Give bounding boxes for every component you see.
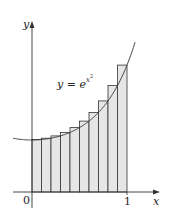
riemann-rectangle bbox=[61, 132, 71, 192]
x-tick-label-1: 1 bbox=[124, 196, 131, 207]
function-label: y = ex2 bbox=[57, 76, 93, 90]
riemann-rectangle bbox=[51, 136, 61, 192]
riemann-rectangle bbox=[32, 140, 42, 192]
riemann-rectangle bbox=[99, 101, 109, 192]
y-axis-arrow-icon bbox=[30, 21, 35, 28]
y-axis-label: y bbox=[23, 19, 29, 30]
x-axis-label: x bbox=[153, 196, 159, 207]
riemann-rectangle bbox=[70, 128, 80, 192]
riemann-rectangle bbox=[118, 65, 128, 192]
function-label-equals: = bbox=[63, 78, 79, 91]
function-label-exp-pow: 2 bbox=[90, 73, 93, 79]
x-axis-arrow-icon bbox=[153, 190, 160, 195]
diagram-canvas bbox=[0, 0, 173, 219]
riemann-rectangle bbox=[89, 112, 99, 192]
riemann-rectangle bbox=[42, 138, 52, 192]
riemann-rectangle bbox=[108, 86, 118, 192]
riemann-rectangle bbox=[80, 121, 90, 192]
origin-label: 0 bbox=[23, 195, 30, 206]
